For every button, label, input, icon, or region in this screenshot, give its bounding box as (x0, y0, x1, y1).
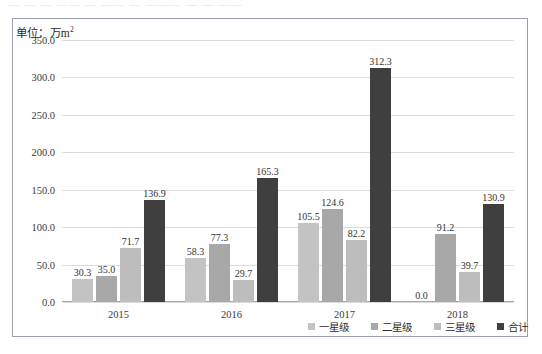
legend-item-三星级[interactable]: 三星级 (434, 319, 475, 334)
bar-slot: 71.7 (120, 40, 141, 302)
bar-三星级-2016[interactable]: 29.7 (233, 280, 254, 302)
y-axis-tick-label: 150.0 (31, 184, 55, 195)
bar-slot: 0.0 (411, 40, 432, 302)
bar-value-label: 130.9 (482, 192, 505, 203)
bar-slot: 82.2 (346, 40, 367, 302)
unit-label-superscript: 2 (70, 25, 74, 34)
cropped-header-text: — — — —— — —— — ——— — — —— (8, 0, 536, 10)
bar-value-label: 77.3 (211, 232, 229, 243)
legend-item-合计[interactable]: 合计 (497, 319, 528, 334)
bar-value-label: 124.6 (321, 197, 344, 208)
legend-swatch-icon (434, 323, 441, 330)
bar-slot: 30.3 (72, 40, 93, 302)
bar-group-2015: 30.335.071.7136.92015 (62, 40, 175, 302)
bar-slot: 312.3 (370, 40, 391, 302)
bar-groups: 30.335.071.7136.9201558.377.329.7165.320… (62, 40, 514, 302)
bar-value-label: 91.2 (437, 222, 455, 233)
bar-group-2017: 105.5124.682.2312.32017 (288, 40, 401, 302)
plot-area: 350.0300.0250.0200.0150.0100.050.00.0 30… (62, 40, 514, 302)
bar-slot: 58.3 (185, 40, 206, 302)
bar-三星级-2018[interactable]: 39.7 (459, 272, 480, 302)
bar-slot: 124.6 (322, 40, 343, 302)
bar-slot: 130.9 (483, 40, 504, 302)
bar-slot: 29.7 (233, 40, 254, 302)
chart-legend: 一星级二星级三星级合计 (62, 318, 528, 334)
bar-value-label: 30.3 (74, 267, 92, 278)
legend-label: 三星级 (445, 319, 475, 334)
bar-value-label: 0.0 (415, 290, 428, 301)
bar-value-label: 71.7 (122, 236, 140, 247)
legend-label: 一星级 (319, 319, 349, 334)
bar-三星级-2017[interactable]: 82.2 (346, 240, 367, 302)
bar-二星级-2018[interactable]: 91.2 (435, 234, 456, 302)
y-axis-tick-label: 50.0 (37, 259, 55, 270)
legend-label: 二星级 (382, 319, 412, 334)
bar-slot: 77.3 (209, 40, 230, 302)
y-axis-tick-label: 200.0 (31, 147, 55, 158)
bar-slot: 105.5 (298, 40, 319, 302)
legend-swatch-icon (497, 323, 504, 330)
chart-page: — — — —— — —— — ——— — — —— 单位：万m2 350.03… (0, 0, 542, 354)
bar-合计-2015[interactable]: 136.9 (144, 200, 165, 302)
y-axis-tick-label: 250.0 (31, 109, 55, 120)
bar-三星级-2015[interactable]: 71.7 (120, 248, 141, 302)
gridline (62, 302, 514, 303)
y-axis-tick-label: 0.0 (42, 297, 55, 308)
bar-value-label: 39.7 (461, 260, 479, 271)
legend-swatch-icon (308, 323, 315, 330)
legend-item-二星级[interactable]: 二星级 (371, 319, 412, 334)
bar-一星级-2017[interactable]: 105.5 (298, 223, 319, 302)
bar-二星级-2016[interactable]: 77.3 (209, 244, 230, 302)
legend-label: 合计 (508, 319, 528, 334)
bar-slot: 39.7 (459, 40, 480, 302)
bar-slot: 136.9 (144, 40, 165, 302)
bar-slot: 91.2 (435, 40, 456, 302)
bar-合计-2018[interactable]: 130.9 (483, 204, 504, 302)
y-axis-tick-label: 100.0 (31, 222, 55, 233)
bar-group-2016: 58.377.329.7165.32016 (175, 40, 288, 302)
bar-slot: 35.0 (96, 40, 117, 302)
legend-swatch-icon (371, 323, 378, 330)
y-axis-tick-label: 300.0 (31, 72, 55, 83)
bar-合计-2016[interactable]: 165.3 (257, 178, 278, 302)
bar-slot: 165.3 (257, 40, 278, 302)
bar-value-label: 29.7 (235, 268, 253, 279)
bar-二星级-2015[interactable]: 35.0 (96, 276, 117, 302)
y-axis-tick-label: 350.0 (31, 35, 55, 46)
bar-value-label: 165.3 (256, 166, 279, 177)
bar-value-label: 312.3 (369, 56, 392, 67)
bar-一星级-2016[interactable]: 58.3 (185, 258, 206, 302)
bar-value-label: 105.5 (297, 211, 320, 222)
bar-value-label: 58.3 (187, 246, 205, 257)
bar-value-label: 136.9 (143, 188, 166, 199)
legend-item-一星级[interactable]: 一星级 (308, 319, 349, 334)
bar-value-label: 82.2 (348, 228, 366, 239)
bar-一星级-2015[interactable]: 30.3 (72, 279, 93, 302)
bar-group-2018: 0.091.239.7130.92018 (401, 40, 514, 302)
bar-二星级-2017[interactable]: 124.6 (322, 209, 343, 302)
bar-value-label: 35.0 (98, 264, 116, 275)
bar-合计-2017[interactable]: 312.3 (370, 68, 391, 302)
